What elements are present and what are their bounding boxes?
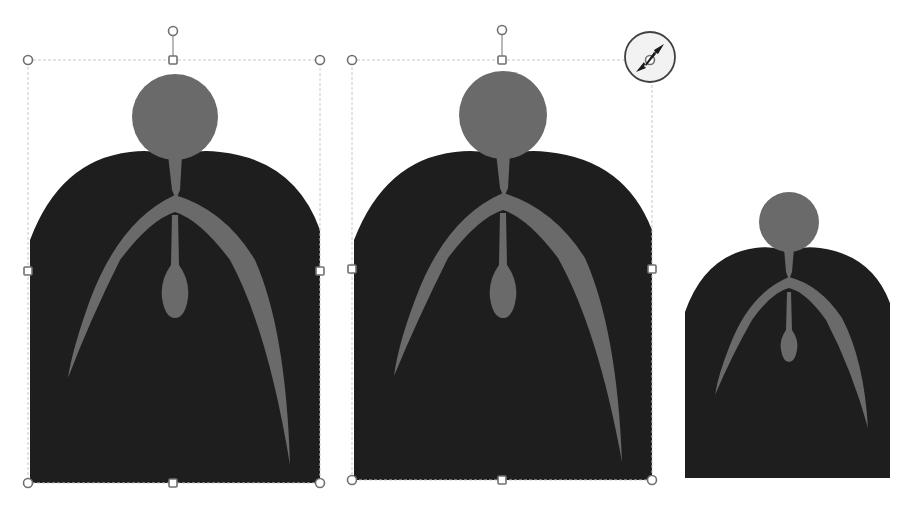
- resize-handle-e-1[interactable]: [316, 267, 324, 275]
- resize-handle-sw-1[interactable]: [24, 479, 33, 488]
- resize-handle-n-1[interactable]: [169, 56, 177, 64]
- resize-handle-nw-1[interactable]: [24, 56, 33, 65]
- rotation-handle-1[interactable]: [169, 27, 178, 36]
- resize-handle-s-2[interactable]: [498, 476, 506, 484]
- resize-handle-n-2[interactable]: [498, 56, 506, 64]
- resize-diagonal-cursor-icon: [625, 32, 675, 82]
- figure-1-selected[interactable]: [0, 0, 908, 506]
- resize-handle-se-1[interactable]: [316, 479, 325, 488]
- rotation-handle-2[interactable]: [498, 26, 507, 35]
- resize-handle-sw-2[interactable]: [348, 476, 357, 485]
- resize-handle-nw-2[interactable]: [348, 56, 357, 65]
- figure-2[interactable]: [354, 71, 652, 480]
- resize-handle-w-1[interactable]: [24, 267, 32, 275]
- resize-handle-s-1[interactable]: [169, 479, 177, 487]
- resize-handle-se-2[interactable]: [648, 476, 657, 485]
- resize-handle-w-2[interactable]: [348, 265, 356, 273]
- figure-1[interactable]: [30, 74, 320, 483]
- figure-3[interactable]: [685, 192, 890, 478]
- resize-handle-ne-1[interactable]: [316, 56, 325, 65]
- resize-handle-e-2[interactable]: [648, 265, 656, 273]
